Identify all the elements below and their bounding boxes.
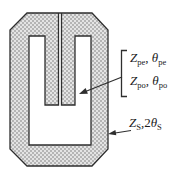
stub-arrow xyxy=(108,130,131,135)
coupled-lines-label-line1: Zpe, θpe xyxy=(130,51,166,65)
theta-subscript: po xyxy=(159,80,168,90)
theta-subscript: S xyxy=(157,122,162,132)
impedance-subscript: po xyxy=(137,80,146,90)
theta-subscript: pe xyxy=(158,57,166,67)
stub-label: ZS,2θS xyxy=(129,116,162,130)
resonator-body-shape xyxy=(10,13,108,166)
separator: ,2 xyxy=(141,115,151,130)
coupled-lines-label-line2: Zpo, θpo xyxy=(130,74,167,88)
label-bracket xyxy=(122,51,128,97)
resonator-figure: Zpe, θpe Zpo, θpo ZS,2θS xyxy=(0,0,179,170)
